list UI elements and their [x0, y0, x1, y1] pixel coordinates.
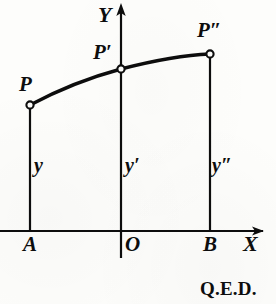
y-axis-label: Y	[98, 4, 111, 26]
ordinate-label-y-double-prime: y″	[212, 155, 232, 175]
point-label-p-double-prime: P″	[197, 20, 221, 41]
point-marker-p-double-prime	[206, 50, 213, 57]
point-marker-p-prime	[117, 65, 124, 72]
y-axis	[116, 3, 125, 258]
point-label-p: P	[19, 74, 32, 95]
base-label-a: A	[23, 234, 37, 255]
x-axis-label: X	[243, 233, 258, 255]
base-label-o: O	[125, 234, 140, 255]
base-label-b: B	[203, 234, 217, 255]
point-marker-p	[26, 101, 33, 108]
ordinate-label-y-prime: y′	[125, 155, 140, 175]
ordinate-label-y: y	[34, 155, 43, 175]
qed-text: Q.E.D.	[200, 278, 257, 300]
point-label-p-prime: P′	[93, 42, 112, 63]
figure-drawing	[0, 0, 276, 304]
figure-canvas: Y X P P′ P″ y y′ y″ A O B Q.E.D.	[0, 0, 276, 304]
